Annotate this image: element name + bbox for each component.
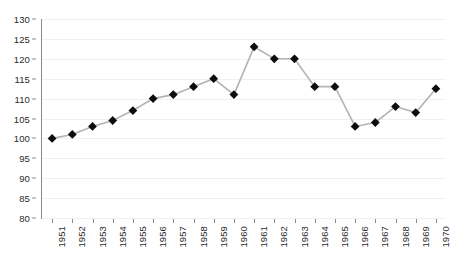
data-point-marker <box>48 134 57 143</box>
plot-area <box>42 19 446 218</box>
x-tick-mark <box>72 219 73 223</box>
x-tick-mark <box>173 219 174 223</box>
x-tick-label: 1966 <box>359 226 370 248</box>
data-point-marker <box>88 122 97 131</box>
x-tick-mark <box>133 219 134 223</box>
y-tick-label: 85 <box>19 193 30 204</box>
x-tick-mark <box>416 219 417 223</box>
x-tick-label: 1951 <box>56 226 67 248</box>
data-point-marker <box>68 130 77 139</box>
data-point-marker <box>149 94 158 103</box>
data-point-marker <box>129 106 138 115</box>
y-tick-mark <box>32 58 36 59</box>
y-tick-label: 125 <box>14 33 30 44</box>
y-tick-mark <box>32 38 36 39</box>
y-tick-mark <box>32 198 36 199</box>
y-tick-label: 95 <box>19 153 30 164</box>
y-tick-mark <box>32 19 36 20</box>
x-tick-label: 1962 <box>278 226 289 248</box>
data-point-marker <box>169 90 178 99</box>
x-tick-mark <box>254 219 255 223</box>
data-point-marker <box>250 42 259 51</box>
y-tick-label: 105 <box>14 113 30 124</box>
x-tick-label: 1970 <box>440 226 451 248</box>
y-tick-mark <box>32 218 36 219</box>
y-tick-label: 130 <box>14 14 30 25</box>
y-tick-label: 80 <box>19 213 30 224</box>
x-tick-label: 1952 <box>76 226 87 248</box>
y-tick-mark <box>32 138 36 139</box>
x-tick-mark <box>295 219 296 223</box>
x-tick-label: 1959 <box>218 226 229 248</box>
data-series <box>42 19 446 218</box>
x-tick-mark <box>335 219 336 223</box>
x-tick-label: 1960 <box>238 226 249 248</box>
x-tick-label: 1968 <box>400 226 411 248</box>
x-tick-mark <box>234 219 235 223</box>
x-tick-label: 1965 <box>339 226 350 248</box>
y-tick-label: 100 <box>14 133 30 144</box>
data-point-marker <box>108 116 117 125</box>
x-tick-mark <box>52 219 53 223</box>
y-tick-mark <box>32 158 36 159</box>
x-tick-label: 1958 <box>198 226 209 248</box>
y-tick-mark <box>32 98 36 99</box>
x-tick-label: 1955 <box>137 226 148 248</box>
x-tick-label: 1963 <box>299 226 310 248</box>
x-tick-label: 1957 <box>177 226 188 248</box>
y-tick-label: 120 <box>14 53 30 64</box>
x-tick-mark <box>396 219 397 223</box>
x-tick-mark <box>375 219 376 223</box>
x-tick-mark <box>113 219 114 223</box>
y-axis: 80859095100105110115120125130 <box>0 19 36 218</box>
series-line <box>52 47 436 139</box>
x-tick-label: 1961 <box>258 226 269 248</box>
data-point-marker <box>270 54 279 63</box>
x-tick-mark <box>355 219 356 223</box>
data-point-marker <box>331 82 340 91</box>
x-tick-mark <box>93 219 94 223</box>
x-tick-label: 1956 <box>157 226 168 248</box>
x-tick-label: 1954 <box>117 226 128 248</box>
y-tick-label: 115 <box>15 73 30 84</box>
line-chart: 80859095100105110115120125130 1951195219… <box>0 0 456 270</box>
x-tick-label: 1967 <box>379 226 390 248</box>
x-tick-mark <box>214 219 215 223</box>
y-tick-mark <box>32 118 36 119</box>
x-axis: 1951195219531954195519561957195819591960… <box>42 219 446 269</box>
x-tick-mark <box>153 219 154 223</box>
data-point-marker <box>351 122 360 131</box>
x-tick-mark <box>436 219 437 223</box>
x-tick-mark <box>274 219 275 223</box>
y-tick-mark <box>32 78 36 79</box>
x-tick-label: 1969 <box>420 226 431 248</box>
y-tick-mark <box>32 178 36 179</box>
y-tick-label: 90 <box>19 173 30 184</box>
y-tick-label: 110 <box>15 93 30 104</box>
data-point-marker <box>189 82 198 91</box>
x-tick-mark <box>315 219 316 223</box>
x-tick-label: 1953 <box>97 226 108 248</box>
x-tick-mark <box>194 219 195 223</box>
x-tick-label: 1964 <box>319 226 330 248</box>
